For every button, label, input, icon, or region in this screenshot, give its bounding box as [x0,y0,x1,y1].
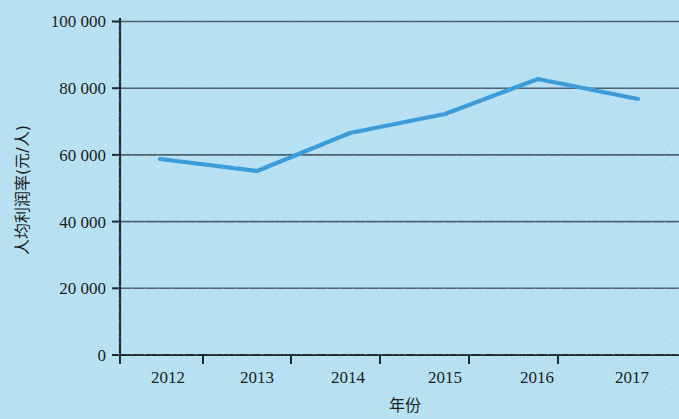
x-tick-label: 2015 [428,368,462,387]
y-axis-title: 人均利润率(元/人) [13,125,32,255]
x-tick-label: 2012 [151,368,185,387]
x-axis-title: 年份 [389,396,421,415]
y-tick-label: 0 [98,346,107,365]
y-tick-label: 20 000 [59,279,106,298]
x-tick-label: 2013 [240,368,274,387]
y-tick-label: 100 000 [51,12,106,31]
line-chart: 100 000 80 000 60 000 40 000 20 000 0 20… [0,0,679,419]
x-tick-label: 2014 [331,368,366,387]
x-tick-label: 2017 [615,368,650,387]
y-tick-label: 60 000 [59,146,106,165]
x-tick-label: 2016 [520,368,554,387]
y-tick-label: 40 000 [59,213,106,232]
chart-canvas: 100 000 80 000 60 000 40 000 20 000 0 20… [0,0,679,419]
y-tick-label: 80 000 [59,79,106,98]
